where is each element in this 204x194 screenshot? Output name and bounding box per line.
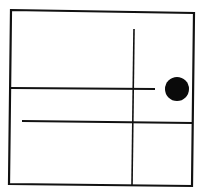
lower-horizontal-wall [22, 121, 193, 123]
upper-horizontal-wall [11, 88, 155, 89]
vertical-divider [132, 29, 134, 185]
maze-diagram [0, 0, 204, 194]
outer-box [9, 10, 194, 186]
black-dot-marker [165, 77, 189, 101]
